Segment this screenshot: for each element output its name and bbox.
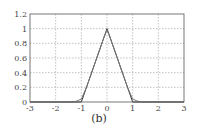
y-tick-label: 0.2	[14, 83, 27, 92]
y-tick-label: 0.4	[14, 69, 27, 78]
y-tick-label: 0.8	[14, 39, 27, 48]
y-axis-ticks: 00.20.40.60.811.2	[14, 10, 27, 107]
y-tick-label: 0.6	[14, 54, 27, 63]
y-tick-label: 1.2	[14, 10, 27, 19]
figure-caption: (b)	[0, 112, 198, 125]
y-tick-label: 1	[22, 25, 27, 34]
grid-lines	[30, 14, 184, 102]
